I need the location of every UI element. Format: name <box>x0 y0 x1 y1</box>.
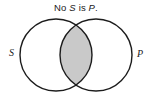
venn-diagram-figure: No S is P. S P <box>0 0 152 97</box>
set-label-s: S <box>9 47 14 58</box>
venn-svg-canvas: S P <box>0 0 152 97</box>
set-label-p: P <box>136 48 143 59</box>
